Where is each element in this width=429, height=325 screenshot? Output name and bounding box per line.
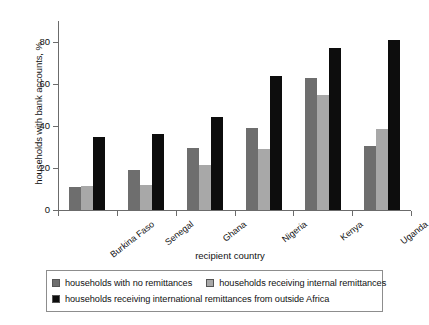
x-tick bbox=[58, 211, 59, 216]
x-tick bbox=[117, 211, 118, 216]
bar bbox=[81, 186, 93, 210]
bar bbox=[329, 48, 341, 210]
x-tick bbox=[176, 211, 177, 216]
bar bbox=[246, 128, 258, 210]
bar bbox=[140, 185, 152, 210]
plot-area: households with bank accounts, % 0204060… bbox=[0, 0, 428, 265]
y-tick-label: 60 bbox=[8, 78, 50, 89]
legend-label-international-remittances: households receiving international remit… bbox=[65, 294, 329, 304]
bar-group bbox=[246, 21, 282, 210]
bar bbox=[258, 149, 270, 210]
y-tick-label: 40 bbox=[8, 120, 50, 131]
bar-group bbox=[128, 21, 164, 210]
x-category-label: Nigeria bbox=[280, 219, 309, 244]
bar bbox=[187, 148, 199, 210]
bar bbox=[388, 40, 400, 210]
bar bbox=[128, 170, 140, 210]
legend-label-no-remittances: households with no remittances bbox=[65, 278, 192, 288]
legend-entry-internal-remittances: households receiving internal remittance… bbox=[206, 278, 386, 288]
y-tick-label: 20 bbox=[8, 162, 50, 173]
bar-group bbox=[305, 21, 341, 210]
bar bbox=[199, 165, 211, 210]
x-axis-title-text: recipient country bbox=[195, 250, 265, 261]
bar bbox=[270, 76, 282, 210]
bar bbox=[211, 117, 223, 210]
legend-entry-no-remittances: households with no remittances bbox=[52, 278, 192, 288]
bar bbox=[305, 78, 317, 210]
x-category-label: Ghana bbox=[221, 219, 248, 244]
bar bbox=[317, 95, 329, 211]
chart-legend: households with no remittances household… bbox=[46, 270, 383, 312]
bar bbox=[93, 137, 105, 211]
legend-row-top: households with no remittances household… bbox=[52, 275, 377, 291]
x-tick bbox=[235, 211, 236, 216]
bar bbox=[376, 129, 388, 210]
bar bbox=[69, 187, 81, 210]
x-category-label: Uganda bbox=[398, 219, 429, 246]
legend-swatch-international-remittances bbox=[52, 295, 60, 303]
x-tick bbox=[411, 211, 412, 216]
x-category-label: Senegal bbox=[163, 219, 195, 247]
x-tick bbox=[293, 211, 294, 216]
x-category-label: Kenya bbox=[338, 219, 364, 243]
bar bbox=[152, 134, 164, 210]
x-tick bbox=[352, 211, 353, 216]
legend-entry-international-remittances: households receiving international remit… bbox=[52, 294, 329, 304]
bar bbox=[364, 146, 376, 210]
y-tick-label: 80 bbox=[8, 36, 50, 47]
legend-swatch-internal-remittances bbox=[206, 279, 214, 287]
bar-group bbox=[364, 21, 400, 210]
legend-row-bottom: households receiving international remit… bbox=[52, 291, 377, 307]
bar-group bbox=[69, 21, 105, 210]
x-axis-title: recipient country bbox=[0, 250, 428, 261]
bar-group bbox=[187, 21, 223, 210]
bars-layer bbox=[58, 21, 411, 210]
legend-label-internal-remittances: households receiving internal remittance… bbox=[219, 278, 386, 288]
legend-swatch-no-remittances bbox=[52, 279, 60, 287]
y-tick-label: 0 bbox=[8, 204, 50, 215]
